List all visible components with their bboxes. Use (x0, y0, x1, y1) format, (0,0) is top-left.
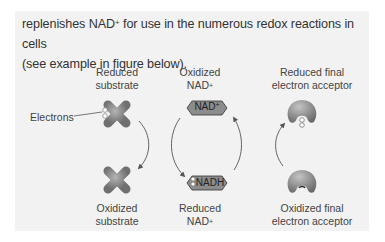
oxidized-final-acceptor-icon (288, 170, 317, 193)
oxidized-substrate-icon (108, 171, 126, 189)
nadh-oxidation-arrow (234, 118, 242, 170)
electrons-icon (103, 108, 108, 119)
tag-text: NAD (194, 101, 215, 112)
superscript-plus: + (216, 101, 220, 108)
reduced-final-acceptor-icon (288, 100, 317, 127)
redox-diagram (0, 0, 385, 242)
final-acceptor-arrow (276, 124, 284, 166)
nad-plus-tag-label: NAD+ (190, 101, 224, 112)
nadh-tag-label: NADH (193, 177, 227, 188)
electrons-pointer-line (74, 112, 102, 116)
reduced-substrate-icon (108, 105, 126, 123)
nad-reduction-arrow (171, 118, 184, 176)
substrate-arrow (139, 121, 149, 168)
